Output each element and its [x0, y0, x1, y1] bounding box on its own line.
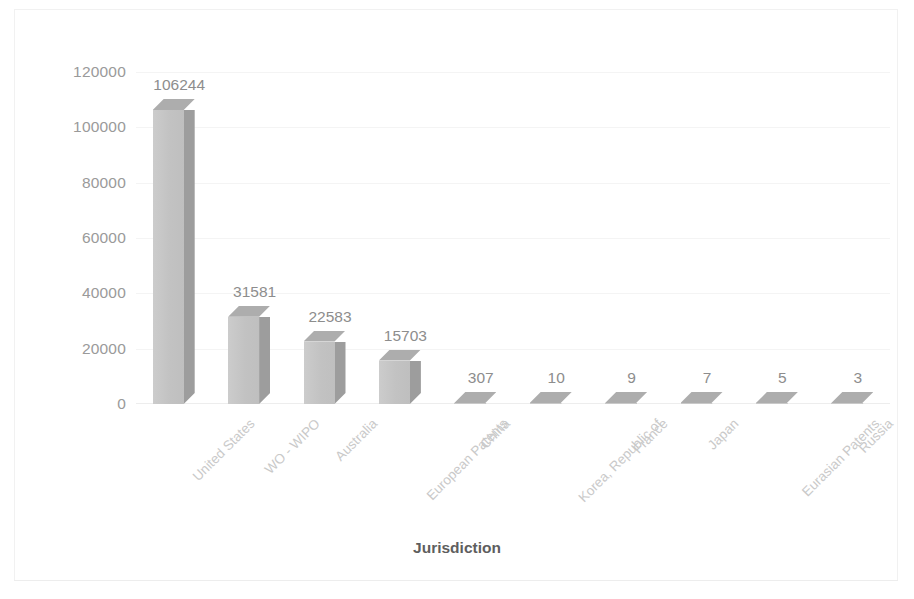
bar-top-face: [228, 306, 270, 317]
bar-value-label: 5: [778, 369, 787, 387]
bar-front-face: [454, 403, 485, 404]
x-axis-title: Jurisdiction: [0, 539, 914, 557]
x-axis-category-label[interactable]: China: [478, 416, 514, 452]
bar[interactable]: [454, 403, 485, 404]
y-axis-tick-label: 100000: [8, 118, 126, 136]
bar-value-label: 7: [703, 369, 712, 387]
bar-value-label: 31581: [233, 283, 276, 301]
x-axis-category-label[interactable]: Eurasian Patents: [799, 416, 882, 499]
y-axis-tick-label: 0: [8, 395, 126, 413]
bar-front-face: [379, 361, 410, 404]
bar-top-face: [530, 392, 572, 403]
bar-value-label: 22583: [308, 308, 351, 326]
bar-side-face: [335, 342, 346, 404]
bar-side-face: [410, 361, 421, 404]
bar-value-label: 15703: [384, 327, 427, 345]
bar-front-face: [831, 403, 862, 404]
bar-top-face: [605, 392, 647, 403]
bar-front-face: [304, 342, 335, 404]
y-axis-tick-label: 20000: [8, 340, 126, 358]
x-axis-category-label[interactable]: Australia: [332, 416, 380, 464]
plot-area: 106244315812258315703307109753: [136, 72, 890, 404]
bar-top-face: [304, 331, 346, 342]
bar-value-label: 3: [853, 369, 862, 387]
bar-front-face: [530, 403, 561, 404]
bar-value-label: 10: [548, 369, 565, 387]
bar-top-face: [454, 392, 496, 403]
bar[interactable]: [304, 342, 335, 404]
gridline: [136, 183, 890, 184]
bar-value-label: 307: [468, 369, 494, 387]
bar-value-label: 106244: [153, 76, 205, 94]
bar[interactable]: [379, 361, 410, 404]
gridline: [136, 238, 890, 239]
bar[interactable]: [530, 403, 561, 404]
gridline: [136, 127, 890, 128]
chart-bottom-edge: [14, 580, 898, 581]
bar[interactable]: [681, 403, 712, 404]
y-axis-tick-label: 60000: [8, 229, 126, 247]
x-axis-category-label[interactable]: United States: [189, 416, 257, 484]
y-axis-tick-label: 120000: [8, 63, 126, 81]
x-axis-category-label[interactable]: Japan: [704, 416, 741, 453]
y-axis-tick-label: 40000: [8, 284, 126, 302]
bar[interactable]: [153, 110, 184, 404]
x-axis-category-label[interactable]: WO - WIPO: [262, 416, 323, 477]
bar-side-face: [184, 110, 195, 404]
bar-top-face: [153, 99, 195, 110]
bar-value-label: 9: [627, 369, 636, 387]
bar-top-face: [681, 392, 723, 403]
bar[interactable]: [228, 317, 259, 404]
bar-front-face: [605, 403, 636, 404]
bar[interactable]: [605, 403, 636, 404]
bar-top-face: [831, 392, 873, 403]
bar-front-face: [153, 110, 184, 404]
bar-side-face: [259, 317, 270, 404]
bar-front-face: [756, 403, 787, 404]
bar-top-face: [756, 392, 798, 403]
bar-front-face: [228, 317, 259, 404]
bar-front-face: [681, 403, 712, 404]
bar[interactable]: [756, 403, 787, 404]
gridline: [136, 72, 890, 73]
bar-top-face: [379, 350, 421, 361]
chart-container: No. of Patents 0200004000060000800001000…: [0, 0, 914, 599]
y-axis-tick-label: 80000: [8, 174, 126, 192]
bar[interactable]: [831, 403, 862, 404]
